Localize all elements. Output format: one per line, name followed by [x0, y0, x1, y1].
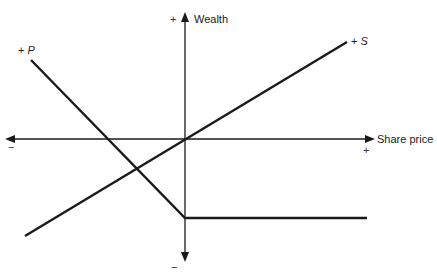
y-axis-plus-sign: + [170, 14, 176, 25]
line-p-label: + P [18, 45, 35, 56]
x-axis-plus-sign: + [363, 145, 369, 156]
line-p-name: P [28, 44, 35, 56]
y-axis-label: Wealth [194, 14, 228, 25]
x-axis-label: Share price [377, 134, 433, 145]
y-axis-down-arrow-icon [181, 252, 189, 262]
x-axis-minus-sign: − [8, 142, 14, 153]
x-axis-right-arrow-icon [365, 135, 375, 143]
line-s-sign: + [351, 35, 357, 47]
line-s-name: S [361, 35, 368, 47]
payoff-diagram [0, 0, 437, 273]
line-p-sign: + [18, 44, 24, 56]
y-axis-minus-sign: − [171, 262, 177, 273]
line-s-label: + S [351, 36, 368, 47]
y-axis-up-arrow-icon [181, 12, 189, 22]
